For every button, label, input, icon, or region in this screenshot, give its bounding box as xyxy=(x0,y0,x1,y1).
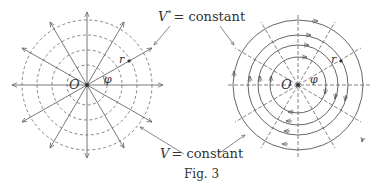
pointer-lines xyxy=(140,26,245,154)
left-angle-label: φ xyxy=(104,73,112,86)
left-diagram xyxy=(12,12,163,158)
right-diagram xyxy=(228,15,372,157)
origin-dot xyxy=(85,83,89,87)
right-radius-label: r xyxy=(331,53,337,66)
right-origin-label: O xyxy=(281,77,292,92)
point-dot xyxy=(339,59,342,62)
figure-canvas: O r φ xyxy=(0,0,380,181)
left-origin-label: O xyxy=(69,77,80,92)
point-dot xyxy=(127,59,130,62)
figure-caption: Fig. 3 xyxy=(184,167,219,181)
origin-dot xyxy=(296,83,300,87)
left-radius-label: r xyxy=(119,53,125,66)
right-angle-label: φ xyxy=(310,73,318,86)
label-v-star: V*= constant xyxy=(158,9,246,24)
label-v: V= constant xyxy=(160,146,244,161)
flow-arrows xyxy=(234,21,363,144)
dashed-radials xyxy=(228,15,372,157)
